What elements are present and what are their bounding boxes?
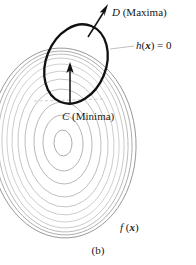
contour-level-1 xyxy=(53,130,72,157)
contour-level-9 xyxy=(0,51,133,236)
label-maxima-symbol: D xyxy=(112,6,120,18)
contour-level-8 xyxy=(0,55,128,231)
contour-level-5 xyxy=(15,77,112,210)
contour-level-7 xyxy=(3,61,123,225)
label-maxima-qualifier: (Maxima) xyxy=(123,6,167,18)
figure-optimization-contours: D (Maxima) h(x) = 0 C (Minima) f (x) (b) xyxy=(0,0,196,265)
label-minima-qualifier: (Minima) xyxy=(72,110,114,122)
label-objective: f (x) xyxy=(120,222,139,233)
gradient-arrow-maxima xyxy=(88,4,108,37)
constraint-curve-h xyxy=(33,15,119,114)
label-constraint-equals: = 0 xyxy=(154,39,171,51)
label-objective-close-paren: ) xyxy=(135,221,139,233)
contour-level-2 xyxy=(42,114,85,172)
label-minima: C (Minima) xyxy=(62,111,114,122)
label-maxima: D (Maxima) xyxy=(112,7,167,18)
label-constraint: h(x) = 0 xyxy=(136,40,172,51)
figure-caption: (b) xyxy=(0,244,196,256)
constraint-leader-line xyxy=(110,46,134,49)
gradient-arrow-minima xyxy=(66,62,73,104)
